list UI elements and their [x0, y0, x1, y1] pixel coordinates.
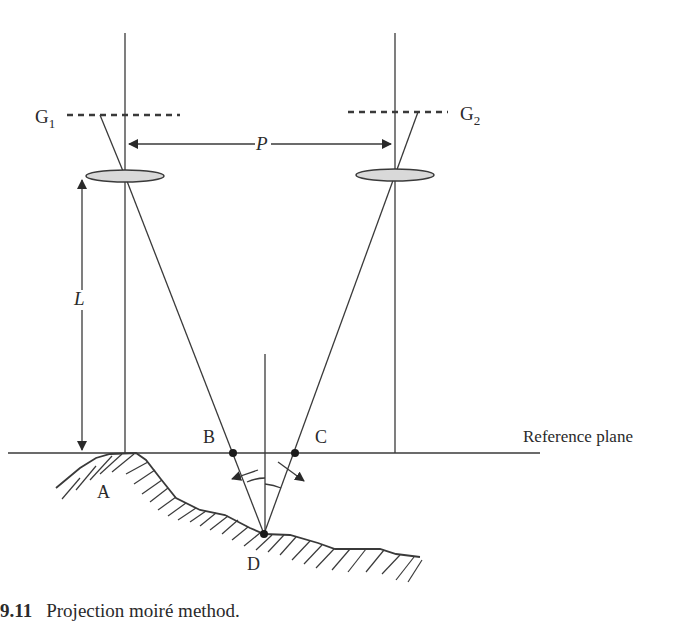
point-c [291, 449, 299, 457]
label-p: P [255, 133, 268, 154]
direction-arrow-right [278, 462, 304, 481]
ray-right-upper [395, 112, 418, 175]
label-l: L [73, 288, 85, 309]
point-d [260, 530, 268, 538]
label-g2: G2 [460, 103, 480, 128]
projection-moire-diagram: G1 G2 P L A B C D Reference plane [0, 0, 689, 639]
label-b: B [203, 427, 215, 447]
figure-number: 9.11 [0, 600, 32, 621]
label-c: C [315, 427, 327, 447]
surface-hatching [62, 454, 422, 582]
point-b [229, 449, 237, 457]
angle-arc-left [247, 478, 265, 482]
ray-right-to-d [264, 175, 395, 534]
figure-caption: 9.11Projection moiré method. [0, 600, 240, 622]
label-d: D [247, 554, 260, 574]
label-a: A [97, 482, 110, 502]
lens-left [86, 170, 164, 182]
label-reference-plane: Reference plane [523, 427, 633, 446]
direction-arrow-left [232, 470, 258, 479]
ray-left-upper [100, 115, 125, 176]
figure-caption-text: Projection moiré method. [46, 600, 240, 621]
angle-arc-right [265, 484, 281, 488]
ray-left-to-d [125, 176, 264, 534]
label-g1: G1 [35, 106, 55, 131]
lens-right [356, 169, 434, 181]
